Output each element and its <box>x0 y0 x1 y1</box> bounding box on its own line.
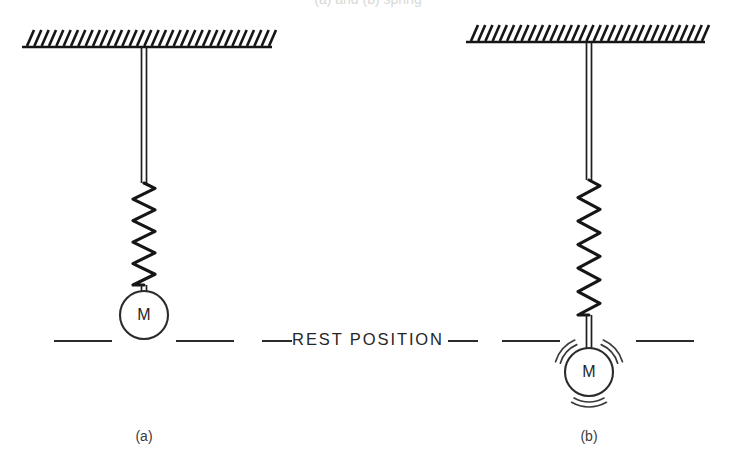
ceiling-hatch <box>181 30 188 46</box>
ceiling-hatch <box>210 30 217 46</box>
ceiling-hatch <box>485 25 492 41</box>
ceiling-hatch <box>122 30 129 46</box>
panel-caption-b: (b) <box>580 428 597 444</box>
ceiling-hatch <box>471 25 478 41</box>
ceiling-hatch <box>644 25 651 41</box>
ceiling-hatch <box>702 25 709 41</box>
ceiling-support-a <box>22 30 276 47</box>
ceiling-hatch <box>152 30 159 46</box>
ceiling-hatch <box>218 30 225 46</box>
ceiling-hatch <box>550 25 557 41</box>
ceiling-hatch <box>144 30 151 46</box>
ceiling-hatch <box>666 25 673 41</box>
ceiling-hatch <box>507 25 514 41</box>
ceiling-hatch <box>623 25 630 41</box>
ceiling-hatch <box>27 30 34 46</box>
ceiling-hatch <box>100 30 107 46</box>
mass-body-b <box>565 315 613 396</box>
ceiling-hatch <box>608 25 615 41</box>
ceiling-hatch <box>615 25 622 41</box>
spring-mass-diagram: M (a) M (b) REST POSITION <box>0 0 736 470</box>
panel-caption-a: (a) <box>135 428 152 444</box>
motion-arc-bottom <box>574 398 604 402</box>
ceiling-hatch <box>174 30 181 46</box>
ceiling-hatch <box>262 30 269 46</box>
ceiling-hatch <box>565 25 572 41</box>
ceiling-hatch <box>500 25 507 41</box>
ceiling-hatch <box>572 25 579 41</box>
ceiling-hatch <box>159 30 166 46</box>
ceiling-hatch <box>137 30 144 46</box>
ceiling-hatch <box>49 30 56 46</box>
ceiling-hatch <box>56 30 63 46</box>
ceiling-hatch <box>587 25 594 41</box>
ceiling-hatch <box>86 30 93 46</box>
ceiling-hatch <box>536 25 543 41</box>
mass-label-a: M <box>137 306 150 323</box>
ceiling-hatch <box>42 30 49 46</box>
ceiling-hatch <box>115 30 122 46</box>
spring-coil-b <box>578 180 600 315</box>
ceiling-hatch <box>543 25 550 41</box>
ceiling-hatch <box>108 30 115 46</box>
ceiling-hatch <box>594 25 601 41</box>
ceiling-hatch <box>232 30 239 46</box>
ceiling-hatch <box>651 25 658 41</box>
ceiling-hatch <box>680 25 687 41</box>
ceiling-hatch <box>203 30 210 46</box>
ceiling-hatch <box>529 25 536 41</box>
ceiling-hatch <box>601 25 608 41</box>
spring-helix <box>133 183 155 285</box>
ceiling-hatch <box>514 25 521 41</box>
motion-arc-bottom <box>572 402 607 407</box>
ceiling-hatch <box>64 30 71 46</box>
ceiling-hatch <box>493 25 500 41</box>
ceiling-hatch <box>240 30 247 46</box>
spring-helix <box>578 180 600 315</box>
ceiling-hatch <box>269 30 276 46</box>
ceiling-hatch <box>225 30 232 46</box>
ceiling-support-b <box>466 25 709 42</box>
ceiling-hatch <box>478 25 485 41</box>
spring-coil-a <box>133 183 155 285</box>
hanging-rod-a <box>142 47 147 183</box>
panel-a: M (a) <box>22 30 276 444</box>
ceiling-hatch <box>78 30 85 46</box>
ceiling-hatch <box>688 25 695 41</box>
ceiling-hatch <box>130 30 137 46</box>
ceiling-hatch <box>673 25 680 41</box>
ceiling-hatch <box>579 25 586 41</box>
ceiling-hatch <box>166 30 173 46</box>
rest-position-label: REST POSITION <box>292 330 444 348</box>
ceiling-hatch <box>247 30 254 46</box>
ceiling-hatch <box>93 30 100 46</box>
ceiling-hatch <box>695 25 702 41</box>
ceiling-hatch <box>522 25 529 41</box>
ceiling-hatch <box>188 30 195 46</box>
ceiling-hatch <box>637 25 644 41</box>
ceiling-hatch <box>558 25 565 41</box>
mass-label-b: M <box>582 363 595 380</box>
ceiling-hatch <box>34 30 41 46</box>
ceiling-hatch <box>196 30 203 46</box>
hanging-rod-b <box>587 42 592 180</box>
ceiling-hatch <box>659 25 666 41</box>
ceiling-hatch <box>254 30 261 46</box>
ceiling-hatch <box>630 25 637 41</box>
figure-root: (a) and (b) spring M (a) M (b) REST POSI… <box>0 0 736 470</box>
panel-b: M (b) <box>466 25 709 444</box>
ceiling-hatch <box>71 30 78 46</box>
